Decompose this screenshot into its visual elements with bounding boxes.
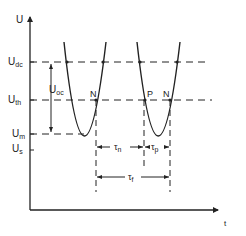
svg-text:Uth: Uth <box>8 94 21 106</box>
point-label-p: P <box>147 89 153 99</box>
x-axis-label: t <box>224 219 227 228</box>
tau-f-interval: τf <box>97 172 169 183</box>
level-label-udc: Udc <box>8 56 23 68</box>
svg-text:τn: τn <box>114 142 122 153</box>
svg-text:Um: Um <box>12 128 25 140</box>
point-label-n2: N <box>163 89 170 99</box>
svg-text:Uoc: Uoc <box>49 84 64 96</box>
tau-n-interval: τn <box>97 142 143 153</box>
level-label-uth: Uth <box>8 94 21 106</box>
curve-1 <box>64 42 106 136</box>
threshold-diagram: U t Udc Uth Um Us Uoc <box>0 0 246 236</box>
curve-2 <box>137 42 180 136</box>
y-axis-label: U <box>16 14 23 25</box>
svg-text:Udc: Udc <box>8 56 23 68</box>
level-label-us: Us <box>12 143 23 155</box>
uoc-label: Uoc <box>49 84 64 96</box>
svg-text:Us: Us <box>12 143 23 155</box>
point-label-n1: N <box>90 89 97 99</box>
level-label-um: Um <box>12 128 25 140</box>
tau-p-interval: τp <box>145 142 169 154</box>
intersection-dots <box>65 60 178 101</box>
svg-text:τp: τp <box>151 142 159 154</box>
svg-text:τf: τf <box>128 172 134 183</box>
